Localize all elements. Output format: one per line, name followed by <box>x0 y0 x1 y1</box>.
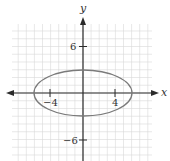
y-axis-label: y <box>79 2 87 15</box>
x-axis-right-arrow-icon <box>151 90 159 96</box>
y-axis-up-arrow-icon <box>80 17 86 25</box>
x-axis-label: x <box>161 86 168 99</box>
tick-label-y-neg6: −6 <box>63 135 78 146</box>
tick-label-y-pos6: 6 <box>70 41 76 52</box>
tick-label-x-neg4: −4 <box>43 97 58 108</box>
tick-label-x-pos4: 4 <box>112 97 118 108</box>
ellipse-graph: −4 4 6 −6 x y <box>0 0 170 161</box>
x-axis-left-arrow-icon <box>6 90 14 96</box>
